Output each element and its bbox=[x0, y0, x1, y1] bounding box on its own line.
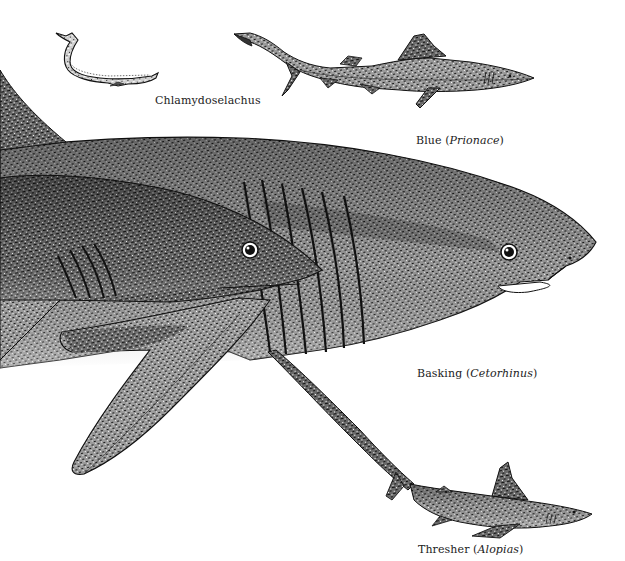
label-common-name: Basking ( bbox=[417, 367, 470, 380]
label-close-paren: ) bbox=[533, 367, 537, 380]
label-genus: Alopias bbox=[477, 543, 519, 556]
label-text: Chlamydoselachus bbox=[155, 94, 261, 107]
shark-illustration-plate: Chlamydoselachus Blue (Prionace) Basking… bbox=[0, 0, 625, 561]
chlamydoselachus-figure bbox=[56, 33, 158, 86]
label-blue-shark: Blue (Prionace) bbox=[416, 134, 504, 147]
label-thresher-shark: Thresher (Alopias) bbox=[418, 543, 523, 556]
label-close-paren: ) bbox=[500, 134, 504, 147]
label-common-name: Thresher ( bbox=[418, 543, 477, 556]
label-genus: Prionace bbox=[450, 134, 500, 147]
shark-drawing bbox=[0, 0, 625, 561]
label-basking-shark: Basking (Cetorhinus) bbox=[417, 367, 537, 380]
label-common-name: Blue ( bbox=[416, 134, 450, 147]
label-genus: Cetorhinus bbox=[470, 367, 533, 380]
label-close-paren: ) bbox=[519, 543, 523, 556]
blue-shark-figure bbox=[234, 33, 534, 108]
label-chlamydoselachus: Chlamydoselachus bbox=[155, 94, 261, 107]
